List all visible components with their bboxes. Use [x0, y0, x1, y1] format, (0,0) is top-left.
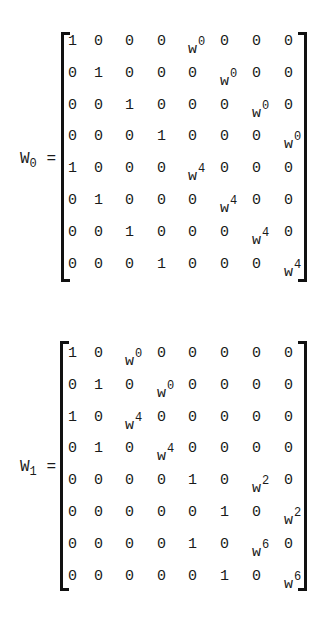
- cell-base: 0: [94, 536, 103, 553]
- matrix-cell: 0: [220, 26, 250, 58]
- cell-base: 0: [188, 504, 197, 521]
- matrix-cell: 0: [220, 249, 250, 281]
- cell-base: 1: [157, 128, 166, 145]
- cell-base: w: [188, 41, 197, 58]
- matrix-cell: 0: [125, 497, 155, 529]
- matrix-cell: 0: [284, 402, 314, 434]
- cell-base: w: [125, 353, 134, 370]
- cell-base: 0: [94, 472, 103, 489]
- matrix-cell: 0: [94, 561, 124, 593]
- cell-base: w: [252, 232, 261, 249]
- cell-base: 0: [68, 128, 77, 145]
- cell-base: 0: [188, 256, 197, 273]
- cell-base: 0: [252, 128, 261, 145]
- matrix-cell: 0: [157, 217, 187, 249]
- cell-base: 0: [157, 568, 166, 585]
- cell-base: 0: [125, 440, 134, 457]
- matrix-cell: 0: [125, 433, 155, 465]
- cell-exponent: 2: [294, 506, 301, 520]
- cell-base: w: [220, 200, 229, 217]
- matrix-cell: 0: [252, 249, 282, 281]
- cell-base: 0: [94, 160, 103, 177]
- cell-base: w: [252, 105, 261, 122]
- cell-base: 1: [94, 65, 103, 82]
- matrix-cell: 0: [220, 465, 250, 497]
- cell-exponent: 0: [167, 379, 174, 393]
- matrix-cell: 0: [188, 249, 218, 281]
- cell-base: 0: [157, 33, 166, 50]
- cell-base: 0: [252, 345, 261, 362]
- cell-base: w: [157, 385, 166, 402]
- cell-base: 0: [252, 409, 261, 426]
- cell-base: 0: [252, 65, 261, 82]
- cell-base: 0: [157, 97, 166, 114]
- cell-base: w: [125, 417, 134, 434]
- matrix-cell: 1: [220, 497, 250, 529]
- cell-base: 0: [284, 33, 293, 50]
- cell-base: 0: [94, 345, 103, 362]
- matrix-cell: 0: [252, 402, 282, 434]
- cell-base: 0: [284, 97, 293, 114]
- cell-base: 0: [157, 224, 166, 241]
- matrix-cell: 0: [252, 433, 282, 465]
- cell-base: 0: [94, 256, 103, 273]
- cell-base: 0: [252, 33, 261, 50]
- matrix-cell: 0: [220, 90, 250, 122]
- cell-base: 0: [68, 97, 77, 114]
- cell-base: w: [284, 576, 293, 593]
- matrix-cell: 0: [284, 153, 314, 185]
- cell-base: 0: [125, 128, 134, 145]
- matrix-cell: w4: [284, 249, 314, 281]
- matrix-cell: 0: [284, 185, 314, 217]
- matrix-cell: 0: [284, 338, 314, 370]
- cell-base: 0: [284, 536, 293, 553]
- cell-base: 0: [125, 192, 134, 209]
- matrix-label-subscript: 0: [30, 157, 37, 171]
- matrix-cell: 0: [157, 497, 187, 529]
- cell-exponent: 4: [230, 194, 237, 208]
- cell-base: 0: [220, 256, 229, 273]
- cell-base: 0: [188, 192, 197, 209]
- cell-base: 1: [94, 377, 103, 394]
- cell-base: 1: [68, 33, 77, 50]
- cell-base: 0: [157, 345, 166, 362]
- matrix-label-w1: W1 =: [20, 458, 56, 479]
- cell-base: 1: [157, 256, 166, 273]
- cell-base: 0: [125, 256, 134, 273]
- cell-base: 0: [220, 536, 229, 553]
- cell-exponent: 4: [135, 411, 142, 425]
- matrix-cell: 0: [94, 26, 124, 58]
- cell-base: 0: [220, 440, 229, 457]
- cell-base: 0: [157, 192, 166, 209]
- matrix-label-name: W: [20, 150, 30, 168]
- matrix-cell: 0: [94, 153, 124, 185]
- matrix-cell: w6: [252, 529, 282, 561]
- matrix-cell: 0: [252, 338, 282, 370]
- cell-base: 0: [68, 377, 77, 394]
- cell-base: 1: [188, 472, 197, 489]
- matrix-cell: w4: [188, 153, 218, 185]
- cell-base: 0: [220, 33, 229, 50]
- matrix-cell: 0: [157, 338, 187, 370]
- cell-base: 0: [252, 192, 261, 209]
- cell-base: 1: [188, 536, 197, 553]
- matrix-cell: 0: [157, 153, 187, 185]
- matrix-cell: 0: [188, 90, 218, 122]
- cell-base: w: [284, 512, 293, 529]
- cell-base: 0: [68, 256, 77, 273]
- matrix-cell: 0: [188, 217, 218, 249]
- matrix-cell: 0: [252, 497, 282, 529]
- cell-exponent: 0: [230, 67, 237, 81]
- cell-exponent: 6: [262, 538, 269, 552]
- cell-base: 0: [188, 224, 197, 241]
- matrix-cell: 1: [188, 465, 218, 497]
- matrix-cell: 0: [252, 370, 282, 402]
- cell-base: 0: [252, 504, 261, 521]
- cell-base: 0: [125, 33, 134, 50]
- cell-base: w: [252, 544, 261, 561]
- cell-base: 0: [94, 409, 103, 426]
- matrix-cell: 0: [220, 153, 250, 185]
- cell-base: 0: [125, 377, 134, 394]
- cell-base: 0: [94, 33, 103, 50]
- matrix-cell: w0: [125, 338, 155, 370]
